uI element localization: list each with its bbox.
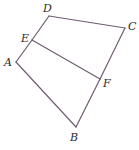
label-a: A — [3, 56, 12, 69]
segments-group — [16, 16, 125, 127]
label-d: D — [42, 2, 52, 15]
segment-cf — [100, 28, 125, 79]
segment-ef — [32, 40, 100, 79]
label-f: F — [102, 77, 111, 90]
label-e: E — [20, 32, 29, 45]
segment-ed — [32, 16, 49, 40]
diagram-canvas: A B C D E F — [0, 0, 139, 150]
segment-fb — [76, 79, 100, 127]
segment-dc — [49, 16, 125, 28]
labels-group: A B C D E F — [3, 2, 137, 144]
segment-ba — [16, 62, 76, 127]
label-b: B — [69, 131, 78, 144]
label-c: C — [128, 20, 137, 33]
geometry-diagram: A B C D E F — [0, 0, 139, 150]
